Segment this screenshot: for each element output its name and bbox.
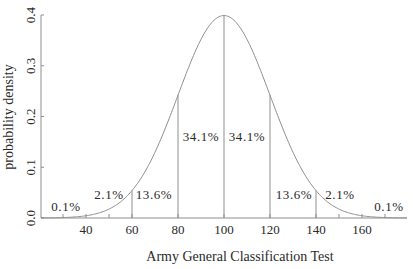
x-tick-label: 120 — [260, 222, 280, 237]
x-axis-ticks: 406080100120140160 — [63, 214, 385, 237]
percent-label: 0.1% — [51, 199, 80, 214]
x-tick-label: 100 — [214, 222, 234, 237]
percent-label: 2.1% — [325, 187, 354, 202]
y-tick-label: 0.1 — [23, 159, 38, 175]
y-tick-label: 0.0 — [23, 210, 38, 226]
normal-distribution-chart: 406080100120140160 0.00.10.20.30.4 0.1%2… — [0, 0, 413, 269]
y-tick-label: 0.2 — [23, 108, 38, 124]
x-tick-label: 140 — [306, 222, 326, 237]
x-axis-title: Army General Classification Test — [146, 249, 333, 264]
x-tick-label: 60 — [126, 222, 139, 237]
percent-label: 34.1% — [229, 129, 266, 144]
percentage-labels: 0.1%2.1%13.6%34.1%34.1%13.6%2.1%0.1% — [51, 129, 403, 214]
y-tick-label: 0.3 — [23, 58, 38, 74]
percent-label: 0.1% — [374, 199, 403, 214]
y-axis-title: probability density — [1, 64, 16, 169]
percent-label: 2.1% — [94, 187, 123, 202]
y-tick-label: 0.4 — [23, 6, 38, 23]
x-tick-label: 80 — [172, 222, 185, 237]
x-tick-label: 160 — [352, 222, 372, 237]
x-tick-label: 40 — [80, 222, 93, 237]
percent-label: 13.6% — [276, 187, 313, 202]
percent-label: 34.1% — [183, 129, 220, 144]
chart-canvas: 406080100120140160 0.00.10.20.30.4 0.1%2… — [0, 0, 413, 269]
percent-label: 13.6% — [136, 187, 173, 202]
